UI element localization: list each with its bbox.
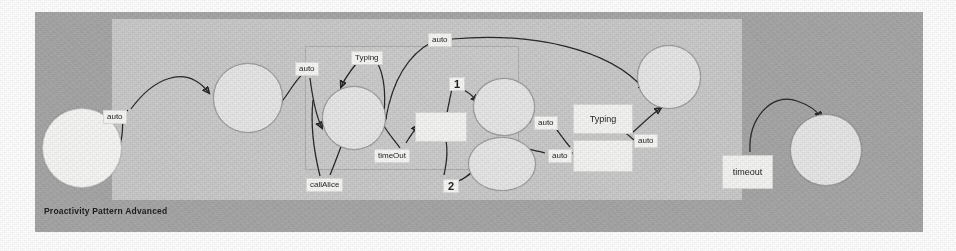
state-node[interactable] [790, 114, 862, 186]
activity-box[interactable] [415, 112, 467, 142]
edge-label-timeout[interactable]: timeOut [374, 149, 410, 163]
edge-label-auto[interactable]: auto [428, 33, 452, 47]
edge-label-auto[interactable]: auto [103, 110, 127, 124]
figure-canvas: Typing timeout auto auto Typing auto cal… [0, 0, 956, 251]
activity-box-timeout[interactable]: timeout [722, 155, 773, 189]
figure-caption: Proactivity Pattern Advanced [44, 206, 167, 216]
state-node[interactable] [468, 137, 536, 191]
edge-label-branch-2[interactable]: 2 [443, 179, 459, 193]
activity-box-typing[interactable]: Typing [573, 104, 633, 134]
state-node[interactable] [213, 63, 283, 133]
state-node[interactable] [473, 78, 535, 136]
edge-label-auto[interactable]: auto [534, 116, 558, 130]
state-node[interactable] [322, 86, 386, 150]
edge-label-auto[interactable]: auto [548, 149, 572, 163]
state-node[interactable] [637, 45, 701, 109]
edge-label-typing[interactable]: Typing [351, 51, 383, 65]
edge-label-auto[interactable]: auto [634, 134, 658, 148]
edge-label-callalice[interactable]: callAlice [306, 178, 343, 192]
edge-label-branch-1[interactable]: 1 [449, 77, 465, 91]
edge-label-auto[interactable]: auto [295, 62, 319, 76]
activity-box[interactable] [573, 140, 633, 172]
